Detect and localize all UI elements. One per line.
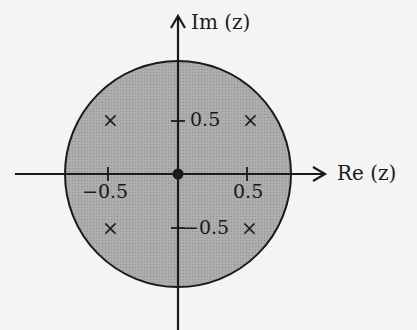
pole-marker-icon: × [241,218,258,238]
real-axis-label: Re (z) [337,163,396,183]
origin-marker-icon [173,169,184,180]
tick-label-y-neg: −0.5 [183,218,229,237]
imag-axis-label: Im (z) [191,12,250,32]
tick-label-x-pos: 0.5 [233,182,263,201]
pole-marker-icon: × [102,110,119,130]
tick-label-y-pos: 0.5 [190,110,220,129]
pole-marker-icon: × [242,110,259,130]
pole-marker-icon: × [102,218,119,238]
z-plane-diagram: Im (z) Re (z) −0.5 0.5 0.5 −0.5 × × × × [0,0,417,330]
tick-label-x-neg: −0.5 [82,182,128,201]
